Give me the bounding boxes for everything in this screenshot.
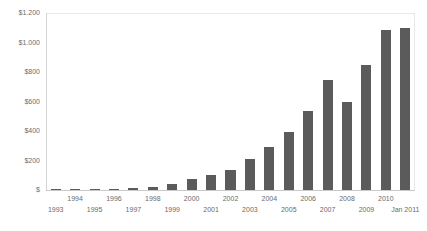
x-axis-tick-label: 1997 bbox=[113, 205, 153, 214]
bar-chart: $$200$400$600$800$1.000$1.200 1993199419… bbox=[0, 0, 427, 231]
bar bbox=[284, 132, 294, 190]
x-axis-tick-label: 2001 bbox=[191, 205, 231, 214]
x-axis-tick-label: 2000 bbox=[172, 194, 212, 203]
axis-baseline bbox=[46, 190, 415, 191]
y-axis-tick-label: $1.200 bbox=[19, 9, 40, 17]
y-axis-tick-label: $600 bbox=[24, 98, 40, 106]
x-axis-tick-label: 1999 bbox=[152, 205, 192, 214]
bar bbox=[109, 189, 119, 190]
x-axis-tick-label: 2002 bbox=[211, 194, 251, 203]
x-axis-tick-label: 1993 bbox=[36, 205, 76, 214]
bar bbox=[148, 187, 158, 190]
x-axis-tick-label: Jan 2011 bbox=[385, 205, 425, 214]
y-axis-tick-label: $400 bbox=[24, 127, 40, 135]
x-axis-tick-label: 1994 bbox=[55, 194, 95, 203]
bar bbox=[225, 170, 235, 190]
chart-title bbox=[46, 0, 416, 4]
x-axis-tick-label: 2006 bbox=[288, 194, 328, 203]
bar bbox=[90, 189, 100, 190]
x-axis-tick-label: 2007 bbox=[308, 205, 348, 214]
x-axis: 1993199419951996199719981999200020012002… bbox=[46, 192, 415, 231]
bar bbox=[245, 159, 255, 190]
x-axis-tick-label: 2008 bbox=[327, 194, 367, 203]
bar bbox=[206, 175, 216, 190]
bar bbox=[361, 65, 371, 190]
y-axis-tick-label: $800 bbox=[24, 68, 40, 76]
x-axis-tick-label: 1996 bbox=[94, 194, 134, 203]
y-axis-tick-label: $1.000 bbox=[19, 39, 40, 47]
bar bbox=[51, 189, 61, 190]
x-axis-tick-label: 1995 bbox=[75, 205, 115, 214]
x-axis-tick-label: 2010 bbox=[366, 194, 406, 203]
bar bbox=[323, 80, 333, 190]
bar-series bbox=[46, 13, 415, 190]
bar bbox=[70, 189, 80, 190]
y-axis-tick-label: $200 bbox=[24, 157, 40, 165]
bar bbox=[303, 111, 313, 190]
x-axis-tick-label: 1998 bbox=[133, 194, 173, 203]
bar bbox=[381, 30, 391, 190]
x-axis-tick-label: 2005 bbox=[269, 205, 309, 214]
x-axis-tick-label: 2003 bbox=[230, 205, 270, 214]
bar bbox=[400, 28, 410, 190]
y-axis: $$200$400$600$800$1.000$1.200 bbox=[0, 0, 43, 200]
bar bbox=[187, 179, 197, 190]
x-axis-tick-label: 2004 bbox=[249, 194, 289, 203]
bar bbox=[167, 184, 177, 190]
x-axis-tick-label: 2009 bbox=[346, 205, 386, 214]
y-axis-tick-label: $ bbox=[36, 186, 40, 194]
bar bbox=[128, 188, 138, 190]
bar bbox=[342, 102, 352, 191]
bar bbox=[264, 147, 274, 190]
